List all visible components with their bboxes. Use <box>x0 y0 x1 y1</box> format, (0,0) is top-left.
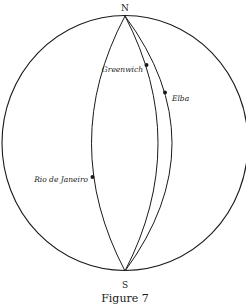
meridian-rio <box>92 16 126 271</box>
rio-label: Rio de Janeiro <box>33 175 88 184</box>
elba-dot <box>163 91 167 95</box>
meridian-greenwich <box>125 16 158 271</box>
globe-diagram: N S Greenwich Elba Rio de Janeiro Figure… <box>0 0 246 305</box>
globe-outline <box>2 16 246 271</box>
north-pole-label: N <box>121 3 129 13</box>
south-pole-label: S <box>122 280 128 290</box>
meridian-elba <box>125 16 172 271</box>
figure-caption: Figure 7 <box>101 292 149 305</box>
greenwich-dot <box>145 63 149 67</box>
elba-label: Elba <box>171 94 189 103</box>
rio-dot <box>91 175 95 179</box>
greenwich-label: Greenwich <box>102 65 143 74</box>
